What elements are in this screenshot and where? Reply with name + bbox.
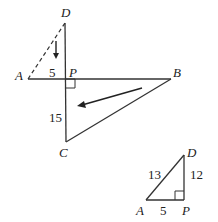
length-PC: 15 [49,110,62,125]
label-A-small: A [135,203,144,218]
geometry-diagram: D A P B C 5 15 D A P 13 12 5 [0,0,218,222]
right-angle-marker [66,79,75,88]
figure-2: D A P 13 12 5 [135,145,203,218]
label-D: D [60,5,71,20]
segment-CB [66,79,171,142]
right-angle-marker-small [175,191,184,200]
arrow-down-icon [53,41,59,59]
figure-1: D A P B C 5 15 [14,5,181,160]
length-DP-small: 12 [190,167,203,182]
label-D-small: D [186,145,197,160]
length-AP-small: 5 [160,203,167,218]
label-A: A [14,68,23,83]
length-AD-small: 13 [148,167,161,182]
dashed-segment-AD [28,23,65,79]
segment-DC [65,23,66,142]
label-C: C [59,145,68,160]
label-P: P [68,65,77,80]
length-AP: 5 [49,65,56,80]
label-B: B [173,65,181,80]
arrow-rotate-icon [77,88,142,108]
label-P-small: P [181,203,190,218]
